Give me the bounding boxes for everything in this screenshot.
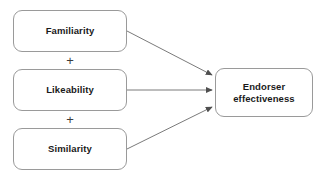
node-likeability-label: Likeability — [46, 84, 94, 96]
node-endorser-effectiveness-label: Endorser effectiveness — [233, 81, 295, 105]
node-likeability: Likeability — [13, 69, 127, 111]
arrow-familiarity-to-endorser — [127, 31, 212, 75]
node-familiarity: Familiarity — [13, 10, 127, 52]
plus-operator-2: + — [63, 113, 77, 126]
plus-operator-1: + — [63, 54, 77, 67]
node-endorser-effectiveness: Endorser effectiveness — [215, 68, 313, 117]
node-similarity-label: Similarity — [48, 143, 92, 155]
node-familiarity-label: Familiarity — [46, 25, 95, 37]
node-similarity: Similarity — [13, 128, 127, 170]
arrow-similarity-to-endorser — [127, 107, 212, 149]
diagram-canvas: Familiarity + Likeability + Similarity E… — [0, 0, 329, 179]
